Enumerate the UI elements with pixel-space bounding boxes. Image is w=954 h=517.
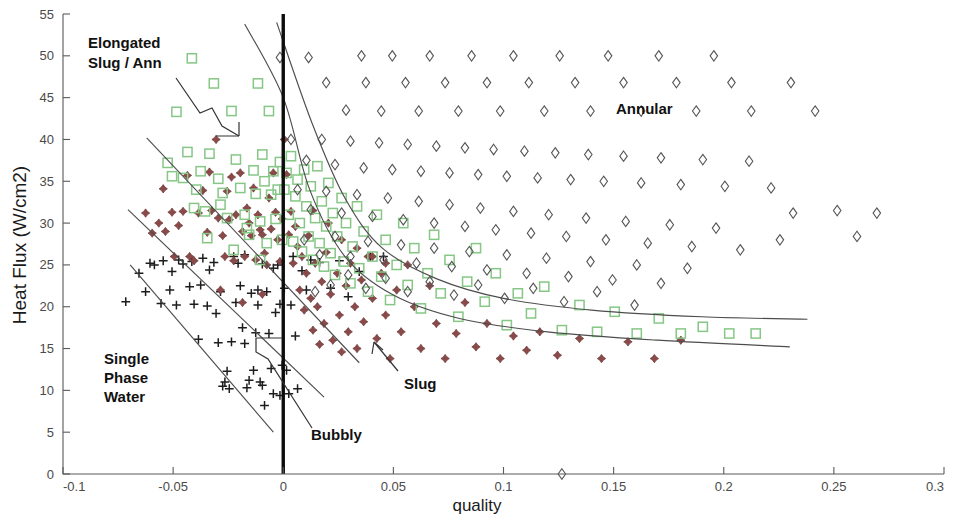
label-single-line1: Single <box>104 350 149 367</box>
x-tick-label: -0.1 <box>63 479 85 494</box>
x-tick-label: 0 <box>280 479 287 494</box>
x-tick-label: 0.25 <box>821 479 846 494</box>
y-tick-label: 50 <box>40 48 54 63</box>
y-tick-label: 5 <box>47 425 54 440</box>
y-tick-label: 55 <box>40 7 54 22</box>
plot-background <box>0 0 954 517</box>
y-tick-label: 0 <box>47 467 54 482</box>
y-tick-label: 25 <box>40 257 54 272</box>
label-single-line3: Water <box>104 388 145 405</box>
x-tick-label: 0.2 <box>715 479 733 494</box>
x-tick-label: 0.1 <box>494 479 512 494</box>
y-tick-label: 10 <box>40 383 54 398</box>
y-tick-label: 45 <box>40 90 54 105</box>
y-tick-label: 20 <box>40 299 54 314</box>
y-tick-label: 40 <box>40 132 54 147</box>
flow-regime-chart: 0510152025303540455055-0.1-0.0500.050.10… <box>0 0 954 517</box>
label-single-line2: Phase <box>104 369 148 386</box>
label-bubbly: Bubbly <box>311 426 362 443</box>
label-slug: Slug <box>404 375 437 392</box>
y-tick-label: 30 <box>40 216 54 231</box>
y-axis-title: Heat Flux (W/cm2) <box>9 166 30 324</box>
y-tick-label: 15 <box>40 341 54 356</box>
chart-canvas: 0510152025303540455055-0.1-0.0500.050.10… <box>0 0 954 517</box>
x-tick-label: 0.3 <box>926 479 944 494</box>
x-tick-label: 0.05 <box>381 479 406 494</box>
x-tick-label: -0.05 <box>158 479 188 494</box>
x-axis-title: quality <box>452 496 502 515</box>
label-elongated-line2: Slug / Ann <box>88 54 162 71</box>
y-tick-label: 35 <box>40 174 54 189</box>
x-tick-label: 0.15 <box>601 479 626 494</box>
label-elongated-line1: Elongated <box>88 34 161 51</box>
label-annular: Annular <box>616 100 673 117</box>
